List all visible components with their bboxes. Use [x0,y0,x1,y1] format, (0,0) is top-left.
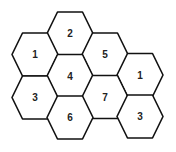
hexagon-diagram: 2 1 5 4 1 3 7 6 3 [0,0,176,152]
hex-label: 5 [102,49,108,60]
hex-cell: 3 [117,95,163,138]
hex-label: 4 [67,71,73,82]
hex-label: 1 [137,70,143,81]
hex-cell: 6 [47,96,93,139]
hex-label: 3 [32,92,38,103]
hex-label: 7 [102,92,108,103]
hex-label: 2 [67,28,73,39]
hex-label: 6 [67,112,73,123]
hex-label: 1 [32,49,38,60]
hex-label: 3 [137,111,143,122]
